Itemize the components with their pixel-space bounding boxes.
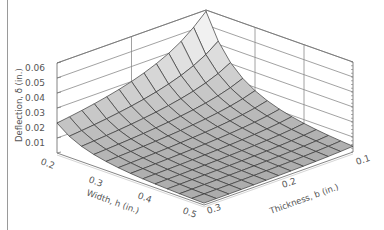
z-tick: 0.03	[25, 108, 45, 118]
z-axis-label: Deflection, δ (in.)	[14, 68, 24, 142]
z-tick: 0.02	[25, 123, 45, 133]
x-tick: 0.4	[136, 190, 153, 204]
y-tick: 0.1	[355, 153, 372, 167]
surface-plot: 0.06 0.05 0.04 0.03 0.02 0.01 Deflection…	[0, 0, 384, 230]
z-axis-ticks: 0.06 0.05 0.04 0.03 0.02 0.01	[25, 63, 45, 148]
z-tick: 0.05	[25, 78, 45, 88]
y-tick: 0.2	[281, 176, 298, 190]
deflection-surface	[57, 11, 353, 203]
z-tick: 0.01	[25, 138, 45, 148]
y-axis-label: Thickness, b (in.)	[267, 182, 340, 217]
x-axis-label: Width, h (in.)	[85, 187, 140, 215]
z-tick: 0.04	[25, 93, 45, 103]
x-tick: 0.3	[87, 174, 104, 188]
y-tick: 0.3	[206, 202, 223, 216]
x-tick: 0.2	[39, 156, 56, 170]
x-tick: 0.5	[181, 205, 198, 219]
z-tick: 0.06	[25, 63, 45, 73]
